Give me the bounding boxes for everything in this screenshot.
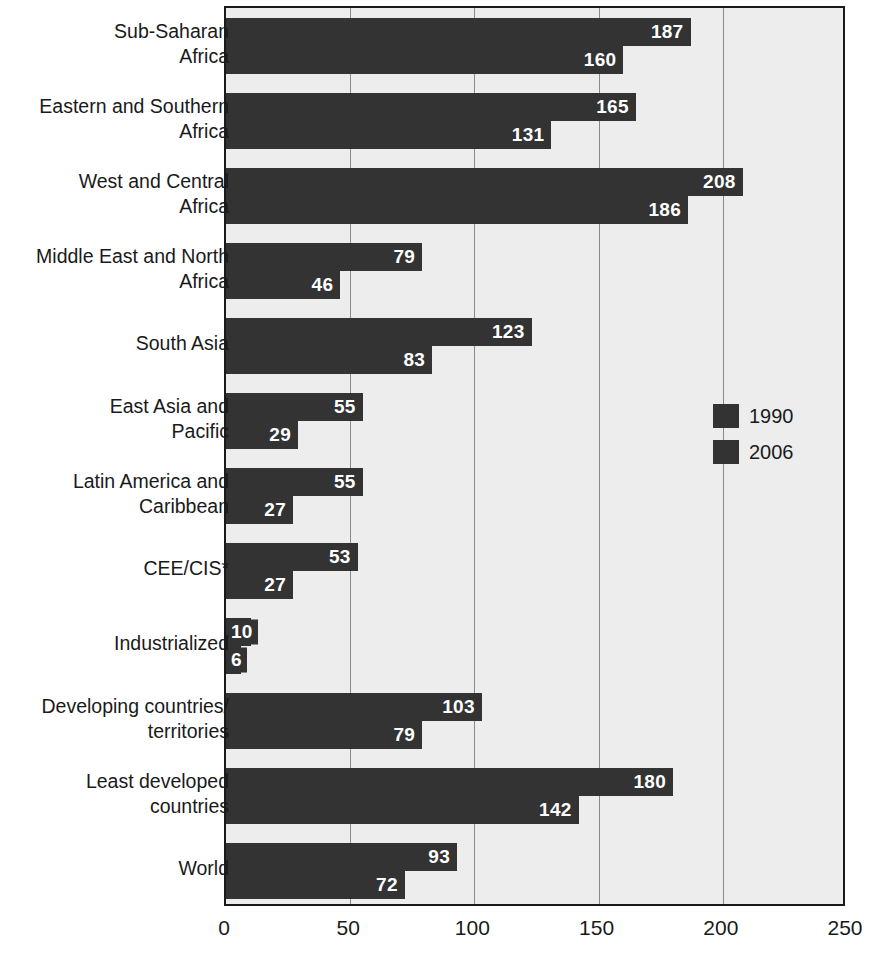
bar-1990: 55 <box>226 468 363 496</box>
bar-row: 72 <box>226 871 843 899</box>
bar-1990: 10 <box>226 618 251 646</box>
bar-row: 180 <box>226 768 843 796</box>
x-tick-200: 200 <box>703 916 738 940</box>
bar-value-label: 72 <box>376 874 398 896</box>
bar-row: 93 <box>226 843 843 871</box>
bar-2006: 27 <box>226 496 293 524</box>
legend-label-1990: 1990 <box>749 405 794 428</box>
bar-row: 83 <box>226 346 843 374</box>
bar-1990: 79 <box>226 243 422 271</box>
bar-1990: 53 <box>226 543 358 571</box>
bar-value-label: 186 <box>648 199 681 221</box>
bar-value-label: 83 <box>403 349 425 371</box>
bar-value-label: 131 <box>512 124 545 146</box>
bar-group: 5327 <box>226 543 843 599</box>
category-label: Developing countries/ territories <box>41 694 229 744</box>
category-label: Eastern and Southern Africa <box>39 94 229 144</box>
bar-value-label: 160 <box>584 49 617 71</box>
bar-value-label: 93 <box>428 846 450 868</box>
bar-1990: 123 <box>226 318 532 346</box>
category-label: Latin America and Caribbean <box>73 469 229 519</box>
bar-row: 123 <box>226 318 843 346</box>
bar-row: 186 <box>226 196 843 224</box>
bar-value-label: 46 <box>312 274 334 296</box>
bar-row: 6 <box>226 646 843 674</box>
x-tick-0: 0 <box>218 916 230 940</box>
bar-row: 79 <box>226 721 843 749</box>
bar-2006: 27 <box>226 571 293 599</box>
x-tick-250: 250 <box>827 916 862 940</box>
legend-swatch-1990-icon <box>713 404 739 428</box>
chart-legend: 1990 2006 <box>713 404 794 476</box>
bar-2006: 79 <box>226 721 422 749</box>
bar-value-label: 55 <box>334 471 356 493</box>
bar-group: 7946 <box>226 243 843 299</box>
bar-value-label: 187 <box>651 21 684 43</box>
category-label: West and Central Africa <box>79 169 229 219</box>
bar-row: 208 <box>226 168 843 196</box>
bar-value-label: 55 <box>334 396 356 418</box>
bar-group: 187160 <box>226 18 843 74</box>
bar-row: 160 <box>226 46 843 74</box>
bar-value-label: 79 <box>394 246 416 268</box>
category-label: World <box>178 856 229 881</box>
bar-row: 165 <box>226 93 843 121</box>
bar-value-label: 10 <box>228 619 258 644</box>
bar-2006: 83 <box>226 346 432 374</box>
category-label: South Asia <box>136 331 229 356</box>
bar-1990: 93 <box>226 843 457 871</box>
x-tick-100: 100 <box>455 916 490 940</box>
bar-row: 53 <box>226 543 843 571</box>
bar-row: 142 <box>226 796 843 824</box>
bar-value-label: 123 <box>492 321 525 343</box>
legend-item-1990: 1990 <box>713 404 794 428</box>
bar-group: 208186 <box>226 168 843 224</box>
bar-value-label: 27 <box>264 574 286 596</box>
bar-group: 180142 <box>226 768 843 824</box>
bar-row: 10 <box>226 618 843 646</box>
category-label: Least developed countries <box>86 769 229 819</box>
bar-2006: 160 <box>226 46 623 74</box>
bar-1990: 187 <box>226 18 691 46</box>
bar-2006: 131 <box>226 121 551 149</box>
bar-value-label: 165 <box>596 96 629 118</box>
category-label: Sub-Saharan Africa <box>114 19 229 69</box>
x-tick-50: 50 <box>337 916 360 940</box>
bar-value-label: 180 <box>634 771 667 793</box>
bar-1990: 103 <box>226 693 482 721</box>
category-label: East Asia and Pacific <box>110 394 229 444</box>
bar-2006: 72 <box>226 871 405 899</box>
bar-1990: 55 <box>226 393 363 421</box>
legend-swatch-2006-icon <box>713 440 739 464</box>
bar-2006: 29 <box>226 421 298 449</box>
category-label: Middle East and North Africa <box>36 244 229 294</box>
bar-1990: 208 <box>226 168 743 196</box>
bar-value-label: 103 <box>442 696 475 718</box>
bar-row: 103 <box>226 693 843 721</box>
category-label: CEE/CIS* <box>143 556 229 581</box>
bar-group: 9372 <box>226 843 843 899</box>
bar-row: 27 <box>226 496 843 524</box>
bar-group: 165131 <box>226 93 843 149</box>
bar-value-label: 79 <box>394 724 416 746</box>
bar-1990: 165 <box>226 93 636 121</box>
bar-group: 12383 <box>226 318 843 374</box>
bar-row: 46 <box>226 271 843 299</box>
legend-item-2006: 2006 <box>713 440 794 464</box>
bar-2006: 142 <box>226 796 579 824</box>
bar-2006: 186 <box>226 196 688 224</box>
bar-value-label: 29 <box>269 424 291 446</box>
bar-value-label: 6 <box>228 647 247 672</box>
bar-row: 187 <box>226 18 843 46</box>
bar-row: 131 <box>226 121 843 149</box>
bar-row: 79 <box>226 243 843 271</box>
bar-1990: 180 <box>226 768 673 796</box>
bar-value-label: 53 <box>329 546 351 568</box>
bar-value-label: 142 <box>539 799 572 821</box>
bar-group: 10379 <box>226 693 843 749</box>
x-tick-150: 150 <box>579 916 614 940</box>
bar-value-label: 208 <box>703 171 736 193</box>
legend-label-2006: 2006 <box>749 441 794 464</box>
bar-group: 106 <box>226 618 843 674</box>
bar-2006: 46 <box>226 271 340 299</box>
